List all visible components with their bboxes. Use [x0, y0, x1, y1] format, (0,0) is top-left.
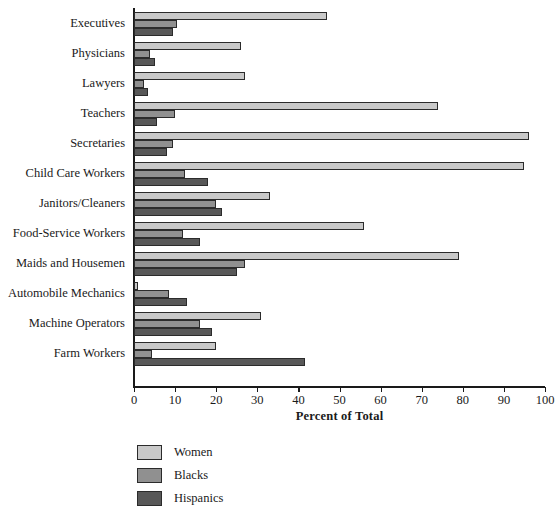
bar-group	[134, 70, 545, 100]
bar-hispanics	[134, 298, 187, 306]
legend-item: Women	[137, 444, 337, 467]
bar-blacks	[134, 80, 144, 88]
x-tick-label: 20	[210, 393, 223, 408]
bar-hispanics	[134, 328, 212, 336]
bar-blacks	[134, 20, 177, 28]
x-tick	[134, 387, 135, 392]
bar-hispanics	[134, 178, 208, 186]
bar-women	[134, 222, 364, 230]
bar-group	[134, 160, 545, 190]
x-tick	[340, 387, 341, 392]
category-label: Janitors/Cleaners	[0, 197, 129, 210]
bar-group	[134, 100, 545, 130]
legend-label: Women	[174, 445, 213, 460]
bar-women	[134, 282, 138, 290]
category-label: Physicians	[0, 47, 129, 60]
category-label: Food-Service Workers	[0, 227, 129, 240]
x-tick	[298, 387, 299, 392]
horizontal-bar-chart: ExecutivesPhysiciansLawyersTeachersSecre…	[0, 0, 559, 513]
bar-blacks	[134, 320, 200, 328]
x-tick	[381, 387, 382, 392]
bar-hispanics	[134, 28, 173, 36]
x-tick-label: 70	[415, 393, 428, 408]
x-tick-label: 60	[374, 393, 387, 408]
bar-group	[134, 220, 545, 250]
bar-group	[134, 280, 545, 310]
category-label: Executives	[0, 17, 129, 30]
bar-hispanics	[134, 268, 237, 276]
bar-women	[134, 42, 241, 50]
category-label: Maids and Housemen	[0, 257, 129, 270]
category-label: Farm Workers	[0, 347, 129, 360]
bar-women	[134, 72, 245, 80]
x-tick-label: 100	[536, 393, 555, 408]
legend-swatch	[137, 468, 162, 483]
x-tick	[175, 387, 176, 392]
bar-blacks	[134, 290, 169, 298]
bar-group	[134, 340, 545, 370]
bar-women	[134, 192, 270, 200]
category-label: Machine Operators	[0, 317, 129, 330]
legend-label: Blacks	[174, 468, 208, 483]
x-tick	[545, 387, 546, 392]
category-label: Lawyers	[0, 77, 129, 90]
x-tick	[257, 387, 258, 392]
bar-group	[134, 40, 545, 70]
plot-area	[134, 8, 545, 385]
bar-blacks	[134, 350, 152, 358]
x-tick-label: 0	[131, 393, 137, 408]
bar-group	[134, 190, 545, 220]
legend-swatch	[137, 491, 162, 506]
bar-blacks	[134, 200, 216, 208]
bar-blacks	[134, 140, 173, 148]
bar-women	[134, 102, 438, 110]
bar-hispanics	[134, 148, 167, 156]
bar-group	[134, 130, 545, 160]
chart-legend: WomenBlacksHispanics	[137, 444, 337, 513]
x-tick-label: 40	[292, 393, 305, 408]
x-tick-label: 90	[498, 393, 511, 408]
bar-hispanics	[134, 88, 148, 96]
bar-women	[134, 162, 524, 170]
bar-hispanics	[134, 238, 200, 246]
bar-group	[134, 250, 545, 280]
category-label: Teachers	[0, 107, 129, 120]
legend-item: Blacks	[137, 467, 337, 490]
x-tick	[216, 387, 217, 392]
x-tick-label: 80	[457, 393, 470, 408]
x-tick-label: 30	[251, 393, 264, 408]
bar-group	[134, 310, 545, 340]
bar-women	[134, 342, 216, 350]
category-labels: ExecutivesPhysiciansLawyersTeachersSecre…	[0, 8, 129, 385]
legend-swatch	[137, 445, 162, 460]
legend-item: Hispanics	[137, 490, 337, 513]
x-tick-label: 50	[333, 393, 346, 408]
bar-women	[134, 132, 529, 140]
x-tick	[463, 387, 464, 392]
category-label: Automobile Mechanics	[0, 287, 129, 300]
bar-hispanics	[134, 358, 305, 366]
bar-blacks	[134, 110, 175, 118]
category-label: Secretaries	[0, 137, 129, 150]
bar-hispanics	[134, 208, 222, 216]
bar-blacks	[134, 50, 150, 58]
bar-blacks	[134, 230, 183, 238]
x-axis-title: Percent of Total	[134, 409, 545, 424]
bar-blacks	[134, 170, 185, 178]
bar-hispanics	[134, 118, 157, 126]
bar-women	[134, 252, 459, 260]
bar-women	[134, 312, 261, 320]
x-tick	[504, 387, 505, 392]
bar-group	[134, 10, 545, 40]
category-label: Child Care Workers	[0, 167, 129, 180]
bar-hispanics	[134, 58, 155, 66]
x-tick-label: 10	[169, 393, 182, 408]
x-tick	[422, 387, 423, 392]
legend-label: Hispanics	[174, 491, 223, 506]
bar-blacks	[134, 260, 245, 268]
bar-women	[134, 12, 327, 20]
